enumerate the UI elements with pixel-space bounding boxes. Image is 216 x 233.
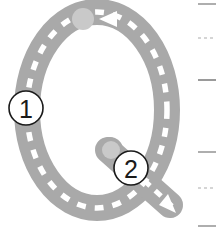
stroke-order-marker-2: 2: [114, 151, 148, 185]
letter-q-diagram: 1 2: [0, 0, 216, 233]
letter-q-glyph: [27, 12, 170, 208]
stroke-marker-2-label: 2: [124, 155, 138, 183]
letter-tracing-worksheet: 1 2: [0, 0, 216, 233]
start-dot-stroke-2: [102, 141, 120, 159]
rule-lines-group: [198, 4, 216, 226]
start-dot-stroke-1: [72, 8, 94, 30]
stroke-order-marker-1: 1: [9, 91, 43, 125]
stroke-marker-1-label: 1: [19, 95, 33, 123]
